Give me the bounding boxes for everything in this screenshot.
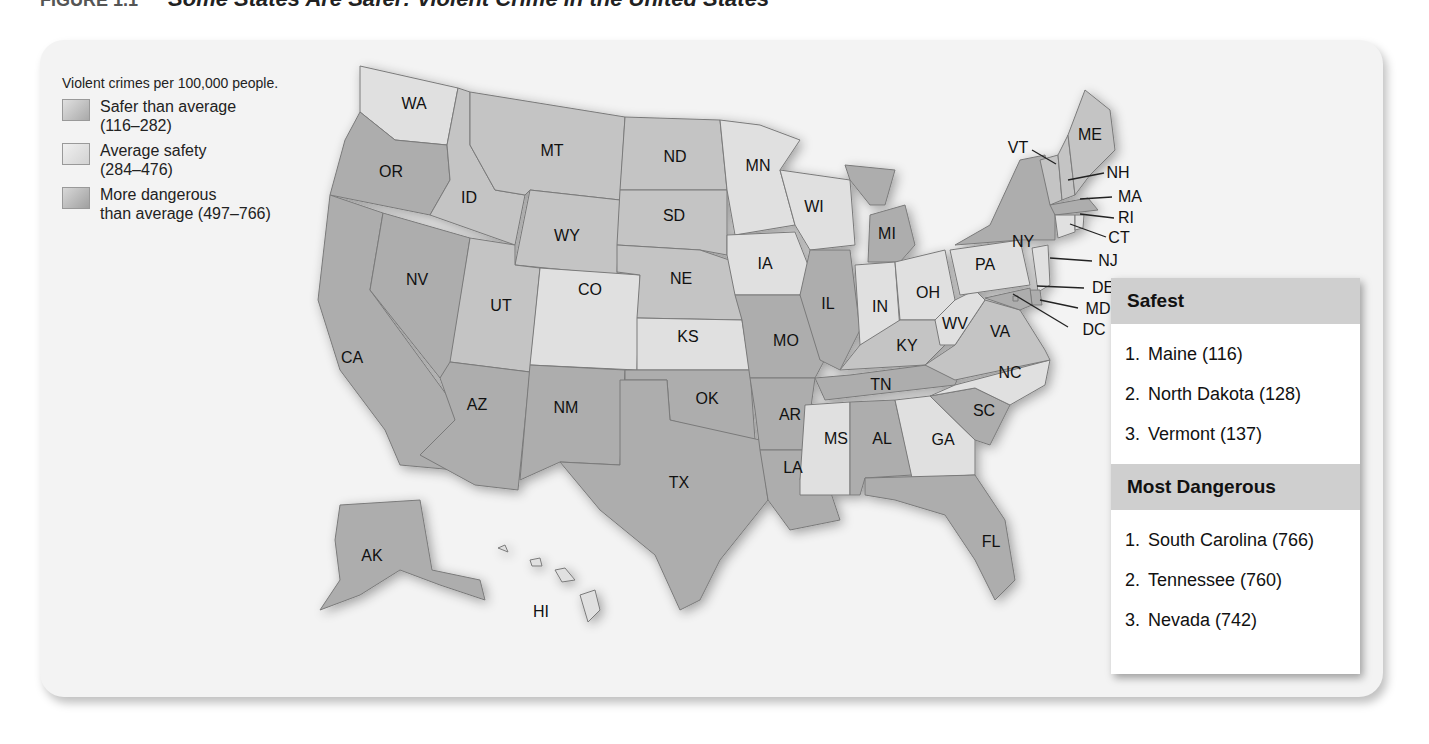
safest-header: Safest — [1111, 278, 1360, 324]
state-label: ND — [663, 148, 686, 165]
state-label: WI — [804, 198, 824, 215]
legend-swatch-safer — [62, 99, 90, 121]
state-label: LA — [783, 459, 803, 476]
state-label: MI — [878, 225, 896, 242]
state-label: WA — [401, 95, 427, 112]
state-AK — [320, 500, 485, 610]
state-label: KS — [677, 328, 698, 345]
state-label: TN — [870, 376, 891, 393]
legend-label: More dangerous — [100, 186, 217, 203]
list-item: 2.Tennessee (760) — [1125, 560, 1346, 600]
legend-item-dangerous: More dangerousthan average (497–766) — [62, 185, 322, 223]
state-label: CA — [341, 349, 364, 366]
state-label: VA — [990, 323, 1010, 340]
state-label: RI — [1118, 209, 1134, 226]
legend-label: Safer than average — [100, 98, 236, 115]
state-label: GA — [931, 431, 954, 448]
list-item: 1.Maine (116) — [1125, 334, 1346, 374]
state-label: AR — [779, 406, 801, 423]
safest-list: 1.Maine (116) 2.North Dakota (128) 3.Ver… — [1111, 324, 1360, 464]
list-item: 2.North Dakota (128) — [1125, 374, 1346, 414]
state-label: FL — [982, 533, 1001, 550]
most-dangerous-list: 1.South Carolina (766) 2.Tennessee (760)… — [1111, 510, 1360, 650]
state-label: CO — [578, 281, 602, 298]
state-label: ME — [1078, 126, 1102, 143]
state-label: MN — [746, 157, 771, 174]
legend-label: Average safety — [100, 142, 206, 159]
legend-range: (284–476) — [100, 161, 173, 178]
state-label: WY — [554, 227, 580, 244]
state-label: NM — [554, 399, 579, 416]
state-label: NJ — [1098, 252, 1118, 269]
state-NY — [955, 155, 1055, 245]
state-label: MO — [773, 332, 799, 349]
state-label: VT — [1008, 139, 1029, 156]
legend-range: than average (497–766) — [100, 205, 271, 222]
state-label: IL — [821, 295, 834, 312]
map-legend: Violent crimes per 100,000 people. Safer… — [62, 75, 322, 229]
most-dangerous-header: Most Dangerous — [1111, 464, 1360, 510]
state-label: WV — [942, 315, 968, 332]
state-label: OK — [695, 390, 718, 407]
state-label: HI — [533, 603, 549, 620]
state-label: PA — [975, 256, 995, 273]
state-label: NC — [998, 364, 1021, 381]
state-label: IA — [757, 255, 772, 272]
state-CT — [1055, 215, 1075, 238]
legend-item-safer: Safer than average(116–282) — [62, 97, 322, 135]
state-label: ID — [461, 189, 477, 206]
legend-range: (116–282) — [100, 117, 172, 134]
state-label: MD — [1086, 300, 1111, 317]
rankings-panel: Safest 1.Maine (116) 2.North Dakota (128… — [1111, 278, 1360, 674]
state-label: MT — [540, 142, 563, 159]
state-label: NE — [670, 270, 692, 287]
legend-swatch-dangerous — [62, 187, 90, 209]
state-label: AL — [872, 430, 892, 447]
state-label: OR — [379, 163, 403, 180]
state-label: NV — [406, 271, 429, 288]
state-label: CT — [1108, 229, 1130, 246]
state-label: MS — [824, 430, 848, 447]
state-label: NH — [1106, 164, 1129, 181]
state-label: SD — [663, 207, 685, 224]
state-label: AK — [361, 547, 383, 564]
state-label: UT — [490, 297, 512, 314]
legend-heading: Violent crimes per 100,000 people. — [62, 75, 322, 91]
state-MI — [845, 165, 915, 262]
legend-swatch-average — [62, 143, 90, 165]
state-label: DC — [1082, 321, 1105, 338]
state-label: NY — [1012, 233, 1035, 250]
list-item: 1.South Carolina (766) — [1125, 520, 1346, 560]
legend-item-average: Average safety(284–476) — [62, 141, 322, 179]
state-label: MA — [1118, 188, 1142, 205]
state-label: OH — [916, 284, 940, 301]
state-MS — [800, 402, 850, 495]
state-NJ — [1032, 245, 1050, 292]
state-label: KY — [896, 337, 918, 354]
state-label: IN — [872, 298, 888, 315]
list-item: 3.Vermont (137) — [1125, 414, 1346, 454]
list-item: 3.Nevada (742) — [1125, 600, 1346, 640]
state-label: TX — [669, 474, 690, 491]
state-label: SC — [973, 402, 995, 419]
state-label: AZ — [467, 396, 488, 413]
state-HI — [498, 545, 600, 622]
